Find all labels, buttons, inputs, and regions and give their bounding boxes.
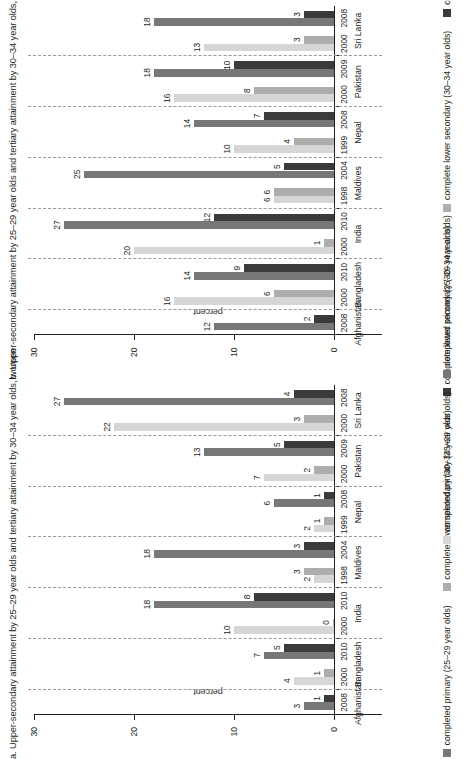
y-axis-tick-label: 20 [129,348,139,358]
bar-primary: 3 [304,702,334,710]
bar-primary: 22 [114,423,334,431]
legend-label: completed primary (25–29 year olds) [442,605,452,745]
x-axis-year-label: 2000 [339,617,349,636]
country-separator [28,689,382,690]
bar-primary: 14 [194,272,334,280]
bar-secondary: 1 [324,669,334,677]
panel-a-title: a. Upper-secondary attainment by 25–29 y… [8,380,18,759]
legend-item[interactable]: complete lower secondary (30–34 year old… [442,0,452,17]
bar-secondary: 8 [254,87,334,95]
x-axis-year-label: 2010 [339,263,349,282]
legend-item[interactable]: completed primary (25–29 year olds) [442,226,452,378]
bar-value-label: 18 [142,68,152,77]
legend-swatch [443,370,451,378]
bar-secondary: 9 [244,264,334,272]
bar-value-label: 14 [182,119,192,128]
bar-value-label: 3 [292,417,302,422]
bar-secondary: 3 [304,415,334,423]
bar-secondary: 3 [304,542,334,550]
x-axis-year-label: 2000 [339,465,349,484]
country-separator [28,157,382,158]
legend-label: completed primary (25–29 year olds) [442,392,452,532]
country-separator [28,55,382,56]
y-axis-tick: 10 [234,336,235,341]
y-axis-tick: 30 [34,336,35,341]
bar-value-label: 4 [282,678,292,683]
legend-label: complete lower secondary (30–34 year old… [442,0,452,5]
bar-value-label: 12 [202,213,212,222]
bar-secondary: 2 [314,315,334,323]
bar-secondary: 7 [264,112,334,120]
x-axis-year-label: 2010 [339,212,349,231]
x-axis-year-label: 2008 [339,490,349,509]
bar-value-label: 18 [142,17,152,26]
x-axis-year-label: 2008 [339,9,349,28]
bar-value-label: 16 [162,94,172,103]
bar-value-label: 1 [312,671,322,676]
legend-item[interactable]: complete lower secondary (30–34 year old… [442,31,452,212]
bar-primary: 6 [274,499,334,507]
bar-primary: 13 [204,44,334,52]
bar-secondary: 4 [294,138,334,146]
bar-secondary: 5 [284,644,334,652]
bar-value-label: 25 [72,170,82,179]
bar-secondary: 8 [254,593,334,601]
x-axis-year-label: 2008 [339,110,349,129]
x-axis-country-label: Bangladesh [353,262,363,307]
panel-a-plot: percent 0102030312008Afghanistan41200075… [34,386,382,716]
x-axis-year-label: 2000 [339,237,349,256]
bar-primary: 7 [264,474,334,482]
x-axis-country-label: Pakistan [353,445,363,478]
legend-label: complete lower secondary (30–34 year old… [442,31,452,200]
bar-value-label: 4 [282,392,292,397]
legend-swatch [443,536,451,544]
x-axis-country-label: Pakistan [353,65,363,98]
bar-primary: 27 [64,398,334,406]
x-axis-year-label: 2008 [339,693,349,712]
bar-value-label: 6 [262,501,272,506]
bar-primary: 18 [154,550,334,558]
x-axis-year-label: 1998 [339,566,349,585]
bar-value-label: 9 [232,266,242,271]
bar-value-label: 8 [242,88,252,93]
bar-secondary: 6 [274,188,334,196]
bar-value-label: 3 [292,704,302,709]
bar-secondary: 3 [304,11,334,19]
bar-value-label: 13 [192,43,202,52]
bar-value-label: 2 [302,317,312,322]
legend-swatch [443,583,451,591]
bar-secondary: 2 [314,466,334,474]
bar-value-label: 12 [202,322,212,331]
bar-primary: 13 [204,448,334,456]
x-axis-country-label: Sri Lanka [353,13,363,49]
bar-value-label: 7 [252,475,262,480]
bar-secondary: 5 [284,441,334,449]
bar-primary: 16 [174,94,334,102]
x-axis-country-label: Sri Lanka [353,392,363,428]
panel-b-legend: completed primary (25–29 year olds)compl… [442,0,452,380]
y-axis-tick-label: 20 [129,727,139,737]
x-axis-country-label: Bangladesh [353,642,363,687]
bar-value-label: 7 [252,653,262,658]
legend-item[interactable]: completed primary (25–29 year olds) [442,605,452,757]
legend-swatch [443,9,451,17]
bar-value-label: 7 [252,114,262,119]
bar-value-label: 20 [122,246,132,255]
y-axis-tick: 0 [334,715,335,720]
bar-secondary: 3 [304,568,334,576]
bar-value-label: 18 [142,600,152,609]
bar-value-label: 3 [292,544,302,549]
bar-value-label: 1 [312,518,322,523]
bar-value-label: 6 [262,197,272,202]
bar-value-label: 1 [312,696,322,701]
x-axis-country-label: Nepal [353,121,363,143]
bar-value-label: 6 [262,190,272,195]
x-axis-year-label: 2009 [339,439,349,458]
bar-secondary: 3 [304,36,334,44]
y-axis-line [34,714,382,715]
bar-primary: 4 [294,677,334,685]
x-axis-year-label: 1999 [339,136,349,155]
bar-secondary: 12 [214,214,334,222]
legend-item[interactable]: completed primary (25–29 year olds) [442,392,452,544]
x-axis-country-label: India [353,225,363,244]
